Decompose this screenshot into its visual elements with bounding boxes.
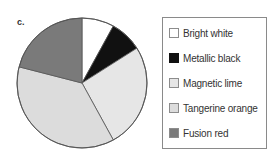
legend-item-magnetic-lime: Magnetic lime	[169, 77, 242, 89]
pie-svg	[0, 0, 160, 163]
legend-label: Bright white	[183, 28, 233, 39]
pie-chart	[0, 0, 160, 163]
swatch-fusion-red	[169, 128, 179, 138]
swatch-bright-white	[169, 28, 179, 38]
swatch-tangerine-orange	[169, 103, 179, 113]
legend-item-tangerine-orange: Tangerine orange	[169, 102, 258, 114]
legend-label: Magnetic lime	[183, 78, 242, 89]
legend-label: Tangerine orange	[183, 103, 258, 114]
swatch-metallic-black	[169, 53, 179, 63]
legend-label: Fusion red	[183, 128, 228, 139]
swatch-magnetic-lime	[169, 78, 179, 88]
legend-item-fusion-red: Fusion red	[169, 127, 228, 139]
legend-item-bright-white: Bright white	[169, 27, 233, 39]
legend-label: Metallic black	[183, 53, 240, 64]
legend: Bright white Metallic black Magnetic lim…	[162, 17, 267, 149]
legend-item-metallic-black: Metallic black	[169, 52, 240, 64]
